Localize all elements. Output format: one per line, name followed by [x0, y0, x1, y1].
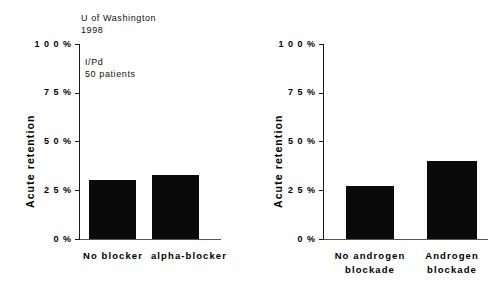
- x-category-label-androgen-blockade-line2: blockade: [412, 264, 492, 276]
- annotation-source-left: U of Washington: [81, 13, 156, 25]
- y-tick-label-25-left: 2 5 %: [8, 186, 72, 195]
- y-tick-mark-0-right: [319, 239, 324, 240]
- y-tick-mark-50-right: [319, 141, 324, 142]
- x-category-label-no-androgen-blockade-line1: No androgen: [328, 250, 412, 262]
- y-tick-mark-50-left: [75, 141, 80, 142]
- y-tick-label-100-right: 1 0 0 %: [250, 40, 316, 49]
- x-axis-line-right: [323, 239, 488, 240]
- y-tick-label-100-left: 1 0 0 %: [8, 40, 72, 49]
- y-tick-mark-25-left: [75, 190, 80, 191]
- y-tick-mark-75-left: [75, 93, 80, 94]
- x-category-label-androgen-blockade-line1: Androgen: [412, 250, 492, 262]
- figure-container: Acute retention 1 0 0 % 7 5 % 5 0 % 2 5 …: [0, 0, 498, 292]
- y-tick-mark-100-right: [319, 44, 324, 45]
- x-category-label-no-androgen-blockade-line2: blockade: [328, 264, 412, 276]
- annotation-drug-left: I/Pd: [85, 57, 103, 69]
- y-tick-mark-100-left: [75, 44, 80, 45]
- x-axis-line-left: [79, 239, 221, 240]
- chart-panel-right: Acute retention 1 0 0 % 7 5 % 5 0 % 2 5 …: [250, 0, 498, 292]
- y-tick-label-75-right: 7 5 %: [250, 88, 316, 97]
- chart-panel-left: Acute retention 1 0 0 % 7 5 % 5 0 % 2 5 …: [0, 0, 250, 292]
- bar-no-blocker: [89, 180, 136, 239]
- annotation-sample-left: 50 patients: [85, 69, 136, 81]
- y-axis-line-right: [323, 44, 324, 240]
- bar-alpha-blocker: [152, 175, 199, 239]
- y-tick-label-25-right: 2 5 %: [250, 186, 316, 195]
- y-tick-mark-0-left: [75, 239, 80, 240]
- y-tick-label-0-right: 0 %: [250, 235, 316, 244]
- bar-no-androgen-blockade: [346, 186, 394, 239]
- annotation-year-left: 1998: [81, 25, 103, 37]
- y-tick-mark-75-right: [319, 93, 324, 94]
- y-tick-mark-25-right: [319, 190, 324, 191]
- y-tick-label-0-left: 0 %: [8, 235, 72, 244]
- y-axis-line-left: [79, 44, 80, 240]
- x-category-label-alpha-blocker: alpha-blocker: [140, 250, 238, 262]
- y-tick-label-75-left: 7 5 %: [8, 88, 72, 97]
- y-tick-label-50-right: 5 0 %: [250, 137, 316, 146]
- y-tick-label-50-left: 5 0 %: [8, 137, 72, 146]
- bar-androgen-blockade: [427, 161, 477, 239]
